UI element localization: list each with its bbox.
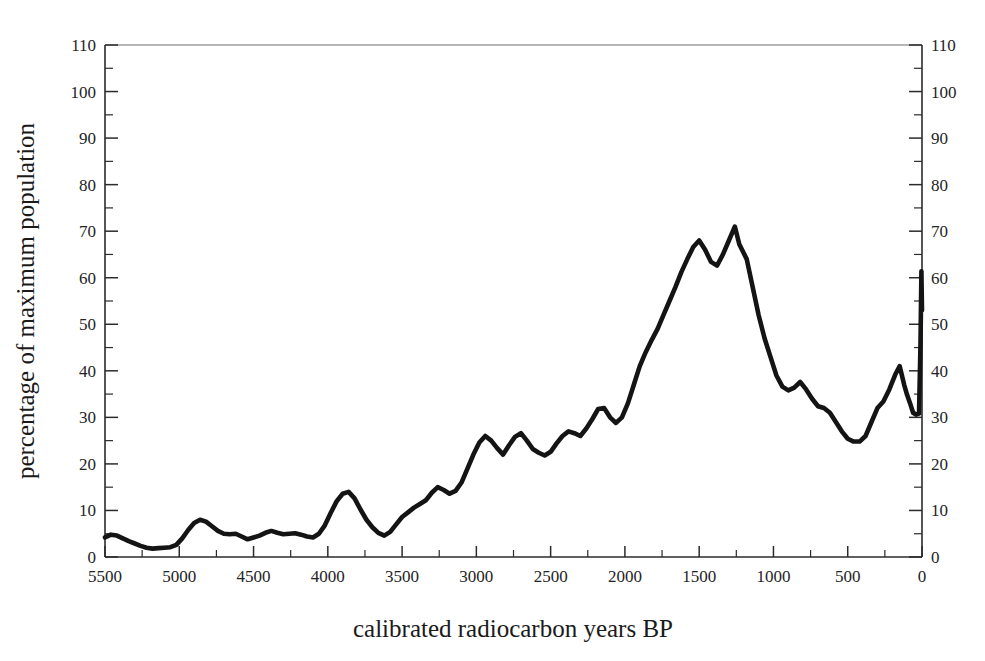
y-axis-right-tick-label: 70 (931, 222, 948, 241)
x-axis-tick-label: 3000 (459, 567, 493, 586)
y-axis-left-tick-label: 50 (79, 315, 96, 334)
x-axis-tick-label: 5000 (162, 567, 196, 586)
x-axis-title: calibrated radiocarbon years BP (353, 615, 673, 642)
y-axis-left-tick-label: 40 (79, 362, 96, 381)
x-axis-tick-label: 1500 (682, 567, 716, 586)
chart-figure: 0102030405060708090100110 01020304050607… (0, 0, 985, 661)
x-axis-tick-label: 2500 (534, 567, 568, 586)
y-axis-right-tick-label: 50 (931, 315, 948, 334)
y-axis-left-tick-label: 0 (88, 548, 97, 567)
y-axis-left-tick-label: 10 (79, 501, 96, 520)
y-axis-right-tick-label: 20 (931, 455, 948, 474)
x-axis-tick-label: 0 (918, 567, 927, 586)
y-axis-left-tick-label: 30 (79, 408, 96, 427)
y-axis-title: percentage of maximum population (12, 122, 39, 479)
x-axis-tick-label: 2000 (608, 567, 642, 586)
y-axis-right-tick-label: 110 (931, 36, 956, 55)
y-axis-right-tick-label: 0 (931, 548, 940, 567)
y-axis-left-tick-label: 100 (71, 83, 97, 102)
x-axis-tick-label: 4500 (237, 567, 271, 586)
y-axis-right-tick-label: 80 (931, 176, 948, 195)
x-axis-tick-label: 500 (835, 567, 861, 586)
x-axis-tick-label: 1000 (756, 567, 790, 586)
y-axis-right-tick-label: 30 (931, 408, 948, 427)
y-axis-left-tick-label: 70 (79, 222, 96, 241)
x-axis-tick-label: 4000 (311, 567, 345, 586)
y-axis-left-tick-label: 60 (79, 269, 96, 288)
y-axis-left-tick-label: 80 (79, 176, 96, 195)
x-axis-tick-label: 3500 (385, 567, 419, 586)
population-proxy-line-chart: 0102030405060708090100110 01020304050607… (0, 0, 985, 661)
y-axis-right-tick-label: 10 (931, 501, 948, 520)
y-axis-left-tick-label: 20 (79, 455, 96, 474)
x-axis-tick-label: 5500 (88, 567, 122, 586)
y-axis-left-tick-label: 110 (71, 36, 96, 55)
y-axis-right-tick-label: 60 (931, 269, 948, 288)
y-axis-right-tick-label: 40 (931, 362, 948, 381)
y-axis-left-tick-label: 90 (79, 129, 96, 148)
chart-background (0, 0, 985, 661)
y-axis-right-tick-label: 90 (931, 129, 948, 148)
y-axis-right-tick-label: 100 (931, 83, 957, 102)
